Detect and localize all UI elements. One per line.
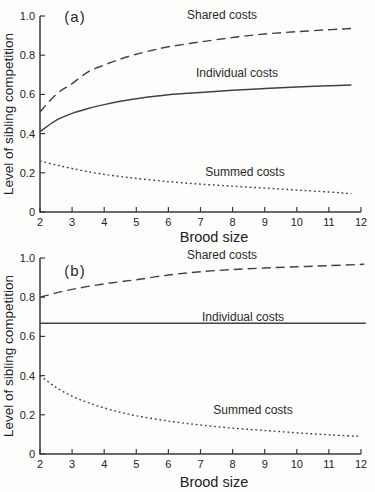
axes xyxy=(40,16,361,212)
panel-b-letter: (b) xyxy=(64,262,85,279)
summed-costs-curve xyxy=(40,376,361,437)
panel-b-plot-layer: 2345678910111200.20.40.60.81.0 xyxy=(20,252,367,470)
x-tick-label: 6 xyxy=(165,216,171,228)
panel-a-y-axis-title: Level of sibling competition xyxy=(1,33,16,195)
x-tick-label: 4 xyxy=(101,216,107,228)
x-tick-label: 10 xyxy=(291,216,303,228)
x-tick-label: 2 xyxy=(37,458,43,470)
y-tick-label: 0.8 xyxy=(20,49,35,61)
panel-a-letter: (a) xyxy=(64,8,85,25)
panel-b-chart: 2345678910111200.20.40.60.81.0 (b) Share… xyxy=(0,246,375,492)
x-tick-label: 3 xyxy=(69,458,75,470)
panel-a-chart: 2345678910111200.20.40.60.81.0 (a) Share… xyxy=(0,0,375,246)
y-tick-label: 0.8 xyxy=(20,291,35,303)
panel-a-x-axis-title: Brood size xyxy=(180,229,249,245)
y-tick-label: 1.0 xyxy=(20,10,35,22)
x-tick-label: 2 xyxy=(37,216,43,228)
panel-a-individual-costs-label: Individual costs xyxy=(196,66,278,80)
x-tick-label: 8 xyxy=(230,216,236,228)
panel-a-shared-costs-label: Shared costs xyxy=(187,8,257,22)
y-tick-label: 0.2 xyxy=(20,167,35,179)
x-tick-label: 12 xyxy=(355,458,367,470)
x-tick-label: 12 xyxy=(355,216,367,228)
x-tick-label: 7 xyxy=(197,216,203,228)
x-tick-label: 11 xyxy=(323,216,334,228)
panel-a-plot-layer: 2345678910111200.20.40.60.81.0 xyxy=(20,10,367,228)
x-tick-label: 4 xyxy=(101,458,107,470)
y-tick-label: 0.2 xyxy=(20,409,35,421)
shared-costs-curve xyxy=(40,264,364,297)
y-tick-label: 0 xyxy=(29,448,35,460)
panel-a-summed-costs-label: Summed costs xyxy=(205,165,284,179)
panel-b-shared-costs-label: Shared costs xyxy=(187,248,257,262)
x-tick-label: 10 xyxy=(291,458,303,470)
two-panel-line-figure: 2345678910111200.20.40.60.81.0 (a) Share… xyxy=(0,0,375,492)
y-tick-label: 0.4 xyxy=(20,370,35,382)
panel-b-summed-costs-label: Summed costs xyxy=(213,403,292,417)
x-tick-label: 9 xyxy=(262,458,268,470)
y-tick-label: 1.0 xyxy=(20,252,35,264)
y-tick-label: 0.6 xyxy=(20,88,35,100)
y-tick-label: 0.6 xyxy=(20,330,35,342)
summed-costs-curve xyxy=(40,161,351,194)
x-tick-label: 7 xyxy=(197,458,203,470)
individual-costs-curve xyxy=(40,85,351,132)
x-tick-label: 11 xyxy=(323,458,334,470)
y-tick-label: 0 xyxy=(29,206,35,218)
x-tick-label: 8 xyxy=(230,458,236,470)
x-tick-label: 6 xyxy=(165,458,171,470)
x-tick-label: 5 xyxy=(133,458,139,470)
x-tick-label: 5 xyxy=(133,216,139,228)
panel-b-y-axis-title: Level of sibling competition xyxy=(1,275,16,437)
panel-b-x-axis-title: Brood size xyxy=(180,474,249,490)
y-tick-label: 0.4 xyxy=(20,128,35,140)
x-tick-label: 9 xyxy=(262,216,268,228)
panel-b-individual-costs-label: Individual costs xyxy=(202,310,284,324)
x-tick-label: 3 xyxy=(69,216,75,228)
